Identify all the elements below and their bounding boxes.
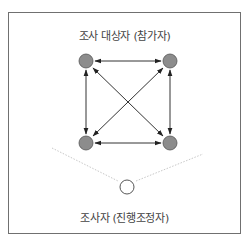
connection-arrows xyxy=(86,61,170,143)
diagram-canvas xyxy=(0,0,249,244)
participant-node xyxy=(163,136,177,150)
participant-node xyxy=(163,54,177,68)
participant-node xyxy=(79,136,93,150)
observer-label: 조사자 (진행조정자) xyxy=(0,209,249,225)
participant-node xyxy=(79,54,93,68)
observer-node xyxy=(120,180,134,194)
observer-view-lines xyxy=(52,148,203,181)
